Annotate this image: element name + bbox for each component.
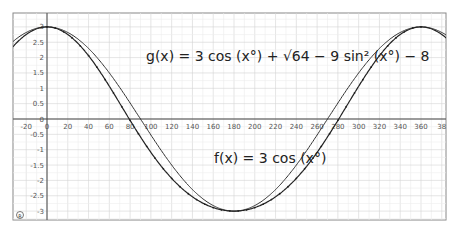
svg-text:-20: -20	[21, 123, 32, 131]
svg-text:1.5: 1.5	[33, 69, 44, 77]
svg-text:38: 38	[437, 123, 446, 131]
svg-text:240: 240	[290, 123, 303, 131]
f-equation-text: f(x) = 3 cos (x°)	[214, 150, 326, 166]
svg-text:120: 120	[165, 123, 178, 131]
svg-text:1: 1	[40, 85, 44, 93]
svg-text:300: 300	[352, 123, 365, 131]
svg-text:360: 360	[414, 123, 427, 131]
svg-text:40: 40	[84, 123, 93, 131]
svg-text:0: 0	[40, 116, 44, 124]
svg-text:340: 340	[394, 123, 407, 131]
svg-text:-1.5: -1.5	[30, 162, 44, 170]
corner-icon-glyph: R	[18, 213, 22, 219]
svg-text:-1: -1	[37, 146, 44, 154]
g-equation-label: g(x) = 3 cos (x°) + √64 − 9 sin² (x°) − …	[146, 48, 430, 64]
svg-text:220: 220	[269, 123, 282, 131]
g-equation-text: g(x) = 3 cos (x°) + √64 − 9 sin² (x°) − …	[146, 48, 430, 64]
svg-text:2.5: 2.5	[33, 39, 44, 47]
svg-text:180: 180	[227, 123, 240, 131]
svg-text:-2: -2	[37, 177, 44, 185]
svg-text:60: 60	[105, 123, 114, 131]
svg-text:0: 0	[45, 123, 49, 131]
svg-text:320: 320	[373, 123, 386, 131]
svg-text:-2.5: -2.5	[30, 192, 44, 200]
svg-text:80: 80	[126, 123, 135, 131]
svg-text:0.5: 0.5	[33, 100, 44, 108]
svg-text:140: 140	[186, 123, 199, 131]
svg-text:2: 2	[40, 54, 44, 62]
svg-text:20: 20	[63, 123, 72, 131]
f-equation-label: f(x) = 3 cos (x°)	[214, 150, 326, 166]
graph-view[interactable]: -200204060801001201401601802002202402602…	[0, 0, 456, 233]
svg-text:200: 200	[248, 123, 261, 131]
svg-text:-0.5: -0.5	[30, 131, 44, 139]
svg-text:-3: -3	[37, 208, 44, 216]
svg-text:160: 160	[207, 123, 220, 131]
